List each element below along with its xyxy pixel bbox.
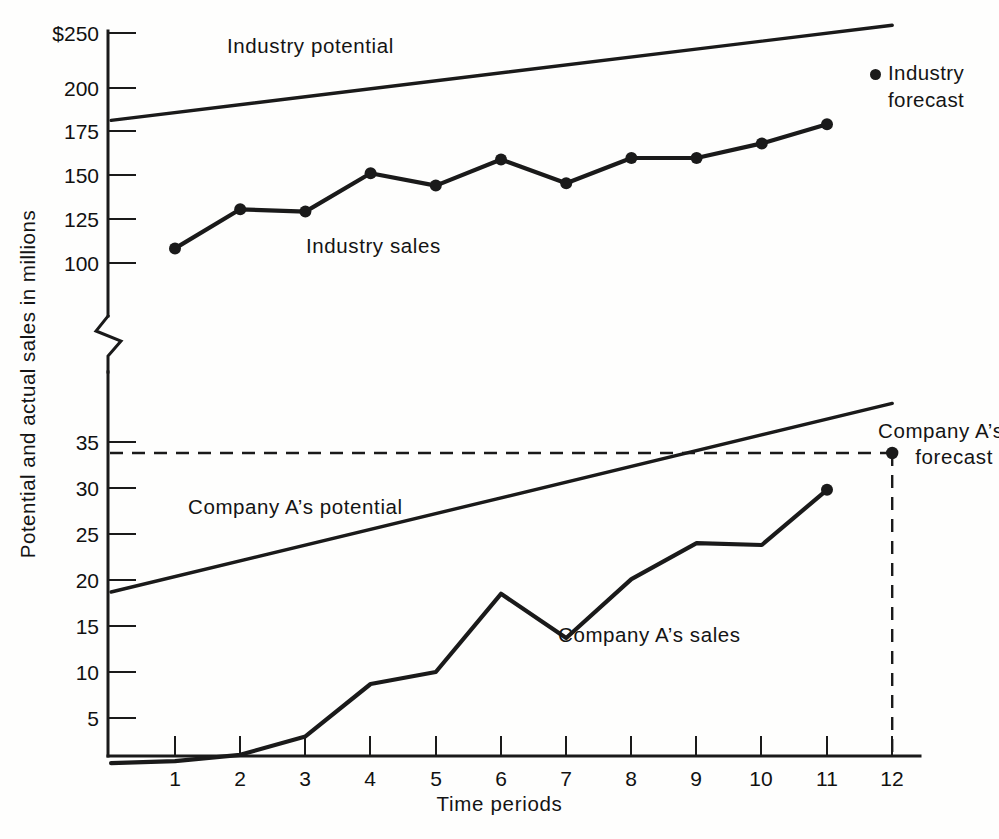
- ytick-label-10: 10: [76, 661, 99, 684]
- company-potential-label: Company A’s potential: [188, 494, 403, 520]
- xtick-label-10: 10: [749, 767, 772, 790]
- data-point-marker: [430, 180, 442, 192]
- data-point-marker: [495, 154, 507, 166]
- chart-plot-area: $250 200 175 150 125 100 35 30 25 20 15 …: [0, 0, 999, 839]
- data-point-marker: [299, 206, 311, 218]
- series-line-1: [175, 124, 827, 248]
- xtick-label-5: 5: [430, 767, 442, 790]
- ytick-label-35: 35: [76, 431, 99, 454]
- data-point-marker: [560, 177, 572, 189]
- data-point-marker: [756, 137, 768, 149]
- company-sales-label: Company A’s sales: [558, 622, 741, 648]
- xtick-label-6: 6: [495, 767, 507, 790]
- xtick-label-1: 1: [169, 767, 181, 790]
- data-point-marker: [821, 118, 833, 130]
- ytick-label-15: 15: [76, 615, 99, 638]
- industry-sales-label: Industry sales: [306, 233, 441, 259]
- data-point-marker: [169, 242, 181, 254]
- xtick-label-9: 9: [690, 767, 702, 790]
- xtick-label-4: 4: [364, 767, 376, 790]
- x-axis: 1 2 3 4 5 6 7 8 9 10 11 12: [108, 736, 920, 790]
- data-series-layer: [110, 25, 898, 763]
- ytick-label-100: 100: [64, 252, 99, 275]
- ytick-label-25: 25: [76, 523, 99, 546]
- legend-label-line2: forecast: [888, 87, 964, 114]
- ytick-label-250: $250: [52, 22, 99, 45]
- data-point-marker: [365, 167, 377, 179]
- ytick-label-175: 175: [64, 120, 99, 143]
- industry-potential-label: Industry potential: [227, 33, 394, 59]
- ytick-label-5: 5: [87, 707, 99, 730]
- legend-industry-forecast: Industry forecast: [888, 60, 964, 113]
- axis-break-zigzag: [96, 316, 121, 372]
- ytick-label-30: 30: [76, 477, 99, 500]
- company-forecast-callout-line1: Company A’s: [878, 418, 993, 444]
- ytick-label-150: 150: [64, 164, 99, 187]
- chart-figure: $250 200 175 150 125 100 35 30 25 20 15 …: [0, 0, 999, 839]
- lower-y-axis: 35 30 25 20 15 10 5: [76, 372, 136, 756]
- xtick-label-11: 11: [816, 767, 838, 790]
- ytick-label-20: 20: [76, 569, 99, 592]
- xtick-label-8: 8: [625, 767, 637, 790]
- legend-marker-dot-icon: [870, 69, 881, 80]
- data-point-marker: [234, 203, 246, 215]
- y-axis-title: Potential and actual sales in millions: [16, 204, 40, 564]
- ytick-label-200: 200: [64, 77, 99, 100]
- company-forecast-callout-line2: forecast: [878, 444, 993, 470]
- upper-y-axis: $250 200 175 150 125 100: [52, 22, 136, 372]
- data-point-marker: [691, 152, 703, 164]
- ytick-label-125: 125: [64, 208, 99, 231]
- xtick-label-2: 2: [234, 767, 246, 790]
- xtick-label-3: 3: [299, 767, 311, 790]
- company-forecast-callout: Company A’s forecast: [878, 418, 993, 469]
- xtick-label-12: 12: [880, 767, 903, 790]
- xtick-label-7: 7: [560, 767, 572, 790]
- legend-label-line1: Industry: [888, 60, 964, 87]
- x-axis-title: Time periods: [0, 792, 999, 816]
- data-point-marker: [821, 484, 833, 496]
- data-point-marker: [625, 152, 637, 164]
